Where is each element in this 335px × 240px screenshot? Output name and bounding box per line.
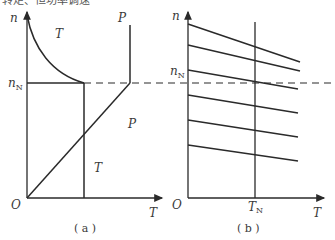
- a-y-axis-label: n: [10, 11, 18, 25]
- b-characteristic-line-1: [188, 24, 300, 62]
- a-rated-speed-label: nN: [8, 76, 23, 92]
- b-characteristic-line-3: [188, 70, 298, 89]
- a-x-axis-label: T: [149, 206, 158, 220]
- panel-a: n nN T P P T O T ( a ): [8, 11, 332, 235]
- a-torque-label-lower: T: [94, 161, 103, 175]
- a-torque-label-upper: T: [55, 27, 64, 41]
- a-power-label-lower: P: [127, 117, 137, 131]
- b-characteristic-lines: [188, 24, 300, 161]
- b-rated-torque-label: TN: [248, 200, 263, 215]
- b-characteristic-line-5: [188, 120, 298, 137]
- b-caption: ( b ): [237, 222, 260, 235]
- a-caption: ( a ): [74, 222, 96, 235]
- b-y-axis-label: n: [172, 9, 180, 23]
- a-power-label-upper: P: [117, 11, 127, 25]
- b-x-axis-label: T: [313, 206, 322, 220]
- b-characteristic-line-2: [188, 45, 300, 71]
- b-characteristic-line-6: [188, 145, 298, 161]
- speed-torque-diagram: 转矩、恒功率调速 n nN T P P T O T ( a ) n nN O T…: [0, 0, 335, 240]
- b-origin-label: O: [172, 198, 182, 212]
- a-power-ramp-line: [27, 83, 130, 198]
- top-cut-text: 转矩、恒功率调速: [2, 0, 90, 7]
- b-rated-speed-label: nN: [170, 64, 185, 80]
- panel-b: n nN O TN T ( b ): [170, 9, 324, 235]
- a-torque-curve-constant-power: [27, 15, 84, 83]
- b-characteristic-line-4: [188, 95, 298, 113]
- a-origin-label: O: [11, 198, 21, 212]
